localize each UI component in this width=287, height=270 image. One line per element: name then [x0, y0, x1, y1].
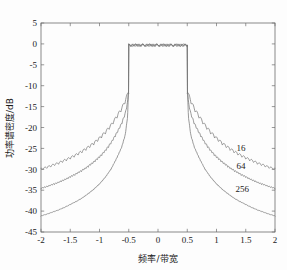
y-tick-label: -40 — [25, 206, 37, 216]
series-label-64: 64 — [237, 161, 247, 171]
x-tick-label: -1 — [96, 235, 104, 245]
y-axis-title: 功率谱密度/dB — [4, 98, 15, 158]
y-tick-label: -35 — [25, 185, 37, 195]
x-tick-label: 0 — [156, 235, 161, 245]
y-tick-label: 5 — [33, 18, 38, 28]
series-label-256: 256 — [235, 184, 249, 194]
x-tick-label: 1 — [214, 235, 219, 245]
x-tick-label: 1.5 — [240, 235, 252, 245]
y-tick-label: -25 — [25, 144, 37, 154]
x-tick-label: 2 — [273, 235, 278, 245]
series-label-16: 16 — [237, 143, 247, 153]
figure-container: -2-1.5-1-0.500.511.52 50-5-10-15-20-25-3… — [0, 0, 287, 270]
chart-background — [0, 0, 287, 270]
y-tick-label: -5 — [30, 60, 38, 70]
y-tick-label: -45 — [25, 227, 37, 237]
y-tick-label: -15 — [25, 102, 37, 112]
x-tick-label: 0.5 — [182, 235, 194, 245]
x-axis-tick-labels: -2-1.5-1-0.500.511.52 — [37, 235, 277, 245]
y-tick-label: -20 — [25, 123, 37, 133]
x-axis-title: 频率/带宽 — [138, 253, 177, 264]
power-spectral-density-chart: -2-1.5-1-0.500.511.52 50-5-10-15-20-25-3… — [0, 0, 287, 270]
y-tick-label: -10 — [25, 81, 37, 91]
x-tick-label: -2 — [37, 235, 45, 245]
y-tick-label: 0 — [33, 39, 38, 49]
y-tick-label: -30 — [25, 165, 37, 175]
x-tick-label: -0.5 — [122, 235, 137, 245]
x-tick-label: -1.5 — [63, 235, 78, 245]
